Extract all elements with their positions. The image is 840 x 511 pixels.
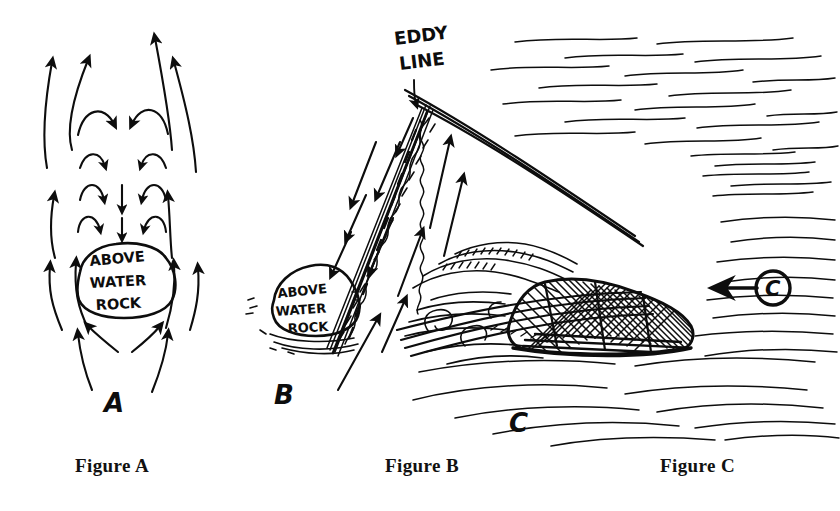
upstream-tongue-lines [405,90,643,246]
current-marker-glyph: C [765,277,781,301]
figure-c-sublabel: C [509,408,528,438]
water-surface-strokes [491,38,838,196]
flow-arrows-eddy-left [78,111,114,232]
flow-arrows-outer-right [155,38,199,330]
rock-label-a-line1: ABOVE [89,248,146,269]
current-direction-marker: C [725,271,790,305]
diagram-page: ABOVE WATER ROCK A EDDY LINE [0,0,840,511]
rock-label-a-line2: WATER [89,272,146,291]
figure-c-caption: Figure C [660,455,735,477]
figure-c-drawing: C C [395,0,840,511]
rock-label-b-line2: WATER [275,301,327,319]
figure-c-panel: C C [395,0,840,511]
rock-label-a: ABOVE WATER ROCK [89,248,147,313]
figure-b-sublabel: B [274,380,294,410]
figure-a-caption: Figure A [75,455,149,477]
flow-arrows-lower-converging [78,326,168,392]
above-water-rock-shape-c [495,276,731,368]
flow-arrows-eddy-right [132,110,168,232]
rock-label-a-line3: ROCK [95,295,142,313]
rock-label-b-line3: ROCK [287,319,329,336]
figure-a-sublabel: A [102,388,124,418]
rock-label-b-line1: ABOVE [277,281,328,301]
figure-b-caption: Figure B [385,455,459,477]
